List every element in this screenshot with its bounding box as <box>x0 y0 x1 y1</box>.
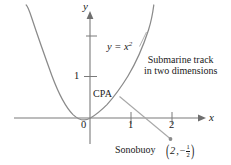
sonobuoy-coord-fraction: 12 <box>186 144 189 159</box>
sonobuoy-coord-minus: − <box>180 145 186 156</box>
equation-equals: = <box>112 41 124 52</box>
sonobuoy-coordinates: (2,−12) <box>165 143 195 159</box>
x-tick-label-2: 2 <box>169 119 174 131</box>
annotation-line-2: in two dimensions <box>144 65 217 76</box>
fraction-numerator: 1 <box>186 144 189 151</box>
y-axis-label: y <box>83 0 88 12</box>
sonobuoy-text: Sonobuoy <box>115 144 156 155</box>
x-axis-label: x <box>209 111 214 123</box>
plot-canvas <box>0 0 231 165</box>
curve-equation-label: y = x2 <box>107 41 132 53</box>
sonobuoy-coord-x: 2 <box>170 145 175 157</box>
submarine-track-annotation: Submarine track in two dimensions <box>144 54 217 76</box>
sonobuoy-coord-comma: , <box>176 145 179 157</box>
x-tick-label-1: 1 <box>128 119 133 131</box>
annotation-line-1: Submarine track <box>144 54 217 65</box>
submarine-track-figure: y x 0 1 2 1 y = x2 Submarine track in tw… <box>0 0 231 165</box>
y-tick-label-1: 1 <box>74 70 79 82</box>
x-axis <box>14 115 206 122</box>
sonobuoy-point-marker <box>169 137 173 141</box>
fraction-denominator: 2 <box>186 151 189 159</box>
sonobuoy-label: Sonobuoy(2,−12) <box>115 143 195 159</box>
equation-exponent: 2 <box>129 40 133 48</box>
y-axis <box>87 11 94 144</box>
origin-label: 0 <box>81 119 86 131</box>
paren-close: ) <box>191 143 194 159</box>
paren-open: ( <box>166 143 169 159</box>
cpa-label: CPA <box>93 88 112 99</box>
